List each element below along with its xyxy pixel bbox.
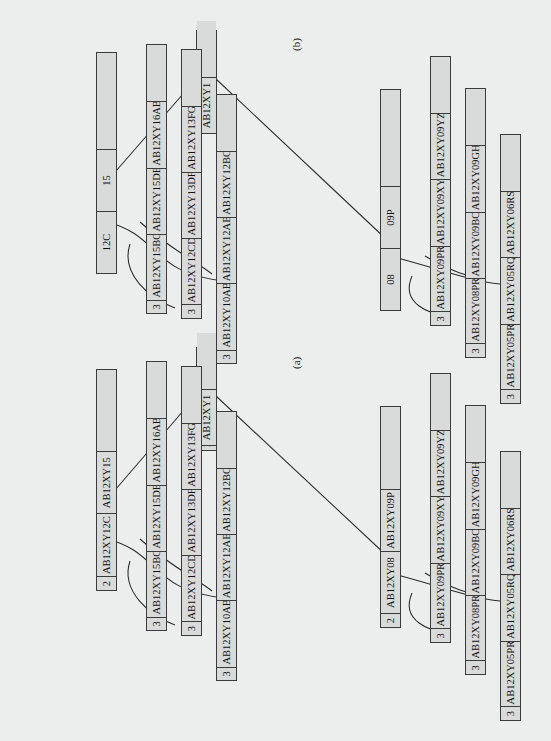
- b-leaf2-key-cell-0: AB12XY15BC: [147, 234, 166, 300]
- b-leaf0-empty-slot-0: [217, 95, 236, 151]
- b-leaf5-count-cell: 3: [431, 312, 450, 326]
- b-edge-root-to-l2-right: [216, 79, 386, 239]
- b-leaf4-count-cell: 3: [466, 344, 485, 358]
- b-leaf1-key-cell-1: AB12XY13DF: [182, 172, 201, 238]
- b-leaf5-key-cell-1: AB12XY09XY: [431, 179, 450, 246]
- rotated-figure-wrapper: 1 AB12XY1 2 AB12XY12C AB12XY15 2 AB12XY0…: [0, 0, 551, 741]
- panel-b-leaf-node-5[interactable]: 3 AB12XY09PR AB12XY09XY AB12XY09YZ: [430, 56, 451, 326]
- b-leaf1-key-cell-0: AB12XY12CD: [182, 238, 201, 305]
- b-internal-right-empty-slot-0: [381, 124, 400, 186]
- b-leaf2-count-cell: 3: [147, 300, 166, 313]
- panel-b-leaf-node-4[interactable]: 3 AB12XY08PR AB12XY09BC AB12XY09GH: [465, 88, 486, 358]
- b-leaf0-key-cell-0: AB12XY10AB: [217, 283, 236, 349]
- b-internal-left-key-cell-0: 12C: [97, 211, 116, 273]
- panel-b-leaf-node-3[interactable]: 3 AB12XY05PR AB12XY05RQ AB12XY06RS: [500, 134, 521, 404]
- figure-page: 1 AB12XY1 2 AB12XY12C AB12XY15 2 AB12XY0…: [0, 0, 551, 741]
- b-leaf4-key-cell-0: AB12XY08PR: [466, 278, 485, 343]
- b-internal-right-key-cell-0: 08: [381, 248, 400, 310]
- panel-b-leaf-node-1[interactable]: 3 AB12XY12CD AB12XY13DF AB12XY13FG: [181, 49, 202, 319]
- b-leaf5-key-cell-0: AB12XY09PR: [431, 246, 450, 311]
- panel-b-internal-node-right[interactable]: 08 09P: [380, 89, 401, 311]
- b-leaf4-key-cell-1: AB12XY09BC: [466, 212, 485, 278]
- b-leaf2-key-cell-2: AB12XY16AB: [147, 101, 166, 168]
- b-leaf5-key-cell-2: AB12XY09YZ: [431, 113, 450, 179]
- b-internal-right-key-cell-1: 09P: [381, 186, 400, 248]
- panel-b-caption: (b): [290, 38, 302, 51]
- b-leaf5-empty-slot-0: [431, 57, 450, 113]
- b-leaf3-key-cell-2: AB12XY06RS: [501, 191, 520, 257]
- b-leaf3-key-cell-0: AB12XY05PR: [501, 324, 520, 390]
- panel-b-leaf-node-0[interactable]: 3 AB12XY10AB AB12XY12AB AB12XY12BC: [216, 94, 237, 364]
- b-leaf2-key-cell-1: AB12XY15DE: [147, 168, 166, 234]
- b-leaf0-key-cell-1: AB12XY12AB: [217, 217, 236, 283]
- b-leaf3-key-cell-1: AB12XY05RQ: [501, 257, 520, 324]
- b-leaf2-empty-slot-0: [147, 45, 166, 101]
- b-leaf1-empty-slot-0: [182, 50, 201, 106]
- b-leaf0-key-cell-2: AB12XY12BC: [217, 151, 236, 217]
- b-leaf3-count-cell: 3: [501, 389, 520, 403]
- b-leaf3-empty-slot-0: [501, 135, 520, 191]
- b-leaf1-key-cell-2: AB12XY13FG: [182, 106, 201, 172]
- panel-b-leaf-node-2[interactable]: 3 AB12XY15BC AB12XY15DE AB12XY16AB: [146, 44, 167, 314]
- b-leaf1-count-cell: 3: [182, 304, 201, 318]
- b-internal-left-key-cell-1: 15: [97, 149, 116, 211]
- panel-b-internal-node-left[interactable]: 12C 15: [96, 52, 117, 274]
- b-leaf4-empty-slot-0: [466, 89, 485, 145]
- b-leaf0-count-cell: 3: [217, 350, 236, 363]
- b-leaf4-key-cell-2: AB12XY09GH: [466, 145, 485, 212]
- b-internal-left-empty-slot-0: [97, 87, 116, 149]
- panel-b: AB12XY1 12C 15 08 09P 3 AB12XY10AB AB12X…: [0, 0, 551, 741]
